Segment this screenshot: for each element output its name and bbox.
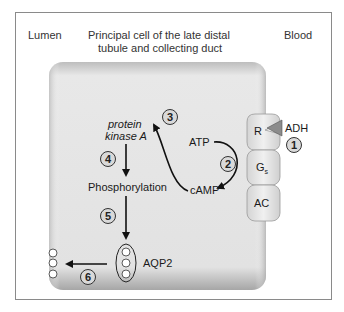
camp-label: cAMP (190, 184, 219, 196)
svg-text:6: 6 (85, 271, 91, 283)
pka-label-line2: kinase A (105, 130, 147, 142)
step-6-badge: 6 (81, 270, 96, 285)
ac-label: AC (254, 197, 269, 209)
phosphorylation-label: Phosphorylation (88, 181, 167, 193)
g-protein-subscript: s (265, 168, 269, 175)
pka-label-line1: protein (107, 118, 142, 130)
step-4-badge: 4 (101, 152, 116, 167)
atp-label: ATP (189, 136, 210, 148)
g-protein: Gs (247, 150, 280, 185)
svg-text:3: 3 (167, 111, 173, 123)
aqp2-pathway-diagram: R Gs AC ADH 1 ATP 2 cAMP 3 protein kinas… (0, 0, 344, 312)
aqp2-label: AQP2 (143, 257, 172, 269)
adh-label: ADH (285, 122, 308, 134)
svg-text:2: 2 (225, 158, 231, 170)
svg-text:4: 4 (105, 153, 112, 165)
apical-aqp2-channels (49, 249, 57, 278)
step-2-badge: 2 (221, 157, 236, 172)
step-1-badge: 1 (287, 138, 302, 153)
step-5-badge: 5 (101, 209, 116, 224)
adenylyl-cyclase: AC (247, 185, 280, 221)
svg-text:1: 1 (291, 139, 297, 151)
g-protein-label: G (256, 161, 265, 173)
receptor-label: R (254, 125, 262, 137)
svg-text:5: 5 (105, 210, 111, 222)
step-3-badge: 3 (163, 110, 178, 125)
